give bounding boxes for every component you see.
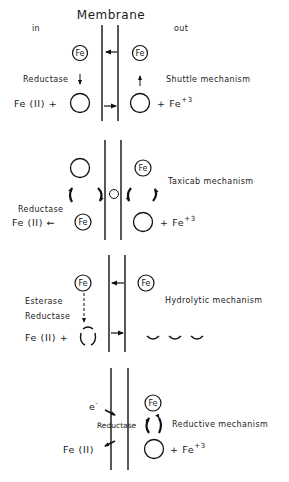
electron-arrow-icon bbox=[105, 410, 115, 415]
reductase-label: Reductase bbox=[25, 312, 70, 321]
curved-arrow-icon bbox=[128, 188, 131, 201]
fe-ii-product-label: Fe (II) bbox=[63, 444, 94, 455]
empty-siderophore-outside bbox=[131, 94, 150, 113]
empty-siderophore-outside bbox=[134, 213, 153, 232]
electron-label: e- bbox=[89, 399, 98, 412]
empty-siderophore-inside bbox=[71, 94, 90, 113]
mechanism-name-shuttle: Shuttle mechanism bbox=[166, 75, 250, 84]
inside-label: in bbox=[32, 24, 40, 33]
esterase-label: Esterase bbox=[25, 297, 63, 306]
svg-text:Fe: Fe bbox=[78, 218, 87, 227]
reductase-label: Reductase bbox=[18, 205, 63, 214]
reductase-label: Reductase bbox=[23, 75, 68, 84]
fe-siderophore-inside: Fe bbox=[75, 214, 91, 230]
mechanism-name-reductive: Reductive mechanism bbox=[172, 420, 268, 429]
mechanism-name-hydrolytic: Hydrolytic mechanism bbox=[165, 296, 262, 305]
panel-taxicab-mechanism: Fe Taxicab mechanism Reductase Fe (II) ←… bbox=[12, 140, 253, 240]
siderophore-fragments-outside bbox=[147, 336, 203, 339]
panel-reductive-mechanism: e- Fe Reductase Reductive mechanism Fe (… bbox=[63, 368, 268, 470]
fe-siderophore-outside: Fe bbox=[145, 395, 161, 411]
fe-siderophore-outside: Fe bbox=[138, 275, 154, 291]
panel-hydrolytic-mechanism: Fe Fe Esterase Reductase Hydrolytic mech… bbox=[25, 255, 262, 352]
siderophore-iron-uptake-diagram: Membrane in out Fe Fe Reductase Shuttle … bbox=[0, 0, 289, 482]
svg-text:Fe: Fe bbox=[141, 279, 150, 288]
curved-arrow-icon bbox=[147, 418, 150, 433]
fe3-label: + Fe+3 bbox=[157, 96, 193, 109]
fe-ii-release-arrow-icon bbox=[105, 441, 115, 446]
panel-shuttle-mechanism: Fe Fe Reductase Shuttle mechanism Fe (II… bbox=[14, 25, 250, 121]
fe-siderophore-inside: Fe bbox=[73, 46, 88, 61]
fe-ii-product-label: Fe (II) ← bbox=[12, 217, 55, 228]
fe3-label: + Fe+3 bbox=[170, 442, 206, 455]
fe-ii-product-label: Fe (II) + bbox=[25, 332, 68, 343]
reductase-label: Reductase bbox=[97, 421, 137, 430]
fe-siderophore-inside: Fe bbox=[75, 275, 91, 291]
svg-text:Fe: Fe bbox=[135, 49, 144, 58]
fe-siderophore-outside: Fe bbox=[133, 46, 148, 61]
fe-ii-product-label: Fe (II) + bbox=[14, 98, 57, 109]
curved-arrow-icon bbox=[159, 418, 161, 433]
hydrolyzed-siderophore-inside bbox=[81, 327, 96, 345]
fe3-label: + Fe+3 bbox=[160, 215, 196, 228]
svg-text:Fe: Fe bbox=[75, 49, 84, 58]
empty-siderophore-outside bbox=[145, 440, 164, 459]
outside-label: out bbox=[174, 24, 188, 33]
empty-siderophore-inside bbox=[71, 159, 90, 178]
curved-arrow-icon bbox=[153, 189, 156, 201]
membrane-carrier bbox=[110, 190, 119, 199]
curved-arrow-icon bbox=[98, 188, 102, 201]
curved-arrow-icon bbox=[70, 188, 72, 202]
mechanism-name-taxicab: Taxicab mechanism bbox=[167, 177, 253, 186]
svg-text:Fe: Fe bbox=[148, 399, 157, 408]
membrane-title: Membrane bbox=[77, 8, 145, 22]
svg-text:Fe: Fe bbox=[78, 279, 87, 288]
fe-siderophore-outside: Fe bbox=[135, 160, 151, 176]
svg-text:Fe: Fe bbox=[138, 164, 147, 173]
